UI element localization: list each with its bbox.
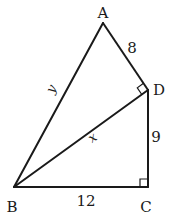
segment-label-ad: 8 [127, 39, 137, 57]
segment-label-dc: 9 [151, 128, 161, 146]
segment-bd [14, 90, 148, 187]
vertex-label-c: C [140, 198, 151, 216]
right-angle-mark-c [140, 179, 148, 187]
segment-label-bc: 12 [76, 192, 95, 210]
vertex-label-b: B [6, 198, 17, 216]
vertex-label-a: A [97, 4, 109, 22]
segment-label-ab: y [42, 82, 59, 97]
vertex-label-d: D [153, 81, 165, 99]
segment-ad [103, 23, 148, 90]
segment-ab [14, 23, 103, 187]
geometry-diagram: A D B C 8 9 12 y x [0, 0, 173, 220]
